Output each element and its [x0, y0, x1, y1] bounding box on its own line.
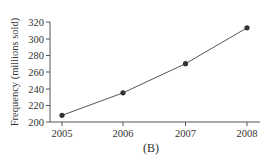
x-tick-label: 2005: [52, 128, 73, 139]
data-point: [183, 61, 188, 66]
y-tick-label: 200: [28, 117, 44, 128]
x-tick-labels: 2005 2006 2007 2008: [52, 128, 258, 139]
y-tick-labels: 200 220 240 260 280 300 320: [28, 17, 44, 128]
data-point: [120, 90, 125, 95]
x-tick-label: 2007: [175, 128, 196, 139]
series-markers: [59, 25, 249, 118]
y-tick-label: 300: [28, 34, 44, 45]
y-axis-label: Frequency (millions sold): [9, 17, 21, 126]
y-ticks: [46, 22, 50, 122]
data-point: [244, 25, 249, 30]
series-line: [62, 28, 247, 116]
y-tick-label: 220: [28, 100, 44, 111]
y-tick-label: 260: [28, 67, 44, 78]
y-tick-label: 280: [28, 50, 44, 61]
x-tick-label: 2008: [237, 128, 258, 139]
y-tick-label: 320: [28, 17, 44, 28]
x-ticks: [62, 122, 247, 126]
data-point: [59, 113, 64, 118]
x-tick-label: 2006: [113, 128, 134, 139]
y-tick-label: 240: [28, 84, 44, 95]
figure-caption: (B): [143, 141, 159, 155]
line-chart: 200 220 240 260 280 300 320 2005 2006 20…: [0, 0, 267, 163]
